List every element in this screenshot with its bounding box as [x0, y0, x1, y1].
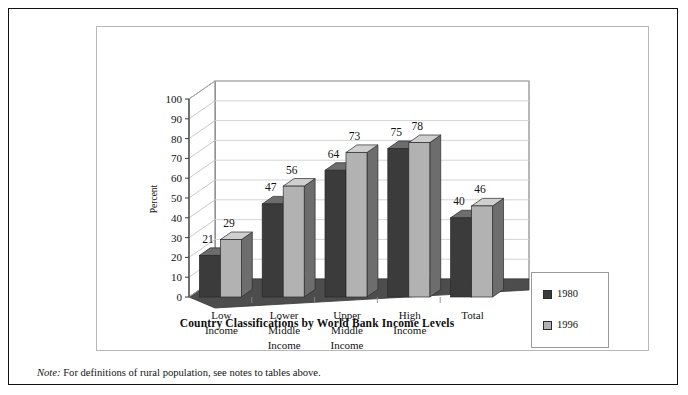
bar-value-label: 78: [412, 120, 424, 132]
x-axis-title: Country Classifications by World Bank In…: [97, 317, 537, 329]
y-axis-title: Percent: [149, 184, 159, 213]
y-tick-label: 90: [171, 113, 183, 125]
bar-1996-high-income: [409, 135, 441, 297]
y-tick-label: 60: [171, 172, 183, 184]
note-text: For definitions of rural population, see…: [61, 367, 321, 378]
bar-value-label: 64: [328, 148, 340, 160]
bar-1996-upper-middle-income: [346, 145, 378, 297]
x-category-label: Income: [268, 339, 301, 350]
y-tick-label: 50: [171, 192, 183, 204]
bar-value-label: 56: [286, 164, 298, 176]
x-category-label: Income: [331, 339, 364, 350]
bar-value-label: 46: [474, 183, 486, 195]
y-tick-label: 30: [171, 232, 183, 244]
y-tick-label: 70: [171, 152, 183, 164]
figure-note: Note: For definitions of rural populatio…: [37, 367, 321, 378]
y-tick-label: 0: [177, 291, 183, 303]
bar-value-label: 73: [349, 130, 361, 142]
note-label: Note:: [37, 367, 61, 378]
bar-value-label: 21: [202, 233, 214, 245]
legend-label-1996: 1996: [557, 320, 578, 331]
bar-value-label: 47: [265, 181, 277, 193]
legend-swatch-1980: [543, 290, 552, 299]
bar-value-label: 40: [453, 195, 465, 207]
chart-panel: 0102030405060708090100 21294756647375784…: [96, 26, 649, 351]
y-tick-label: 40: [171, 212, 183, 224]
legend-label-1980: 1980: [557, 289, 578, 300]
chart-legend: 1980 1996: [531, 272, 609, 348]
legend-entry-1980: 1980: [543, 289, 578, 300]
y-tick-label: 100: [166, 93, 183, 105]
y-tick-label: 80: [171, 133, 183, 145]
bar-value-label: 29: [223, 217, 235, 229]
bar-1996-low-income: [220, 232, 252, 297]
y-tick-label: 20: [171, 251, 183, 263]
bar-1996-total: [472, 198, 504, 297]
figure-outer-frame: 0102030405060708090100 21294756647375784…: [8, 8, 678, 385]
bar-value-label: 75: [391, 126, 403, 138]
legend-entry-1996: 1996: [543, 320, 578, 331]
bar-1996-lower-middle-income: [283, 179, 315, 297]
y-tick-label: 10: [171, 271, 183, 283]
y-axis-ticks: 0102030405060708090100: [166, 93, 183, 303]
category-labels: LowIncomeLowerMiddleIncomeUpperMiddleInc…: [205, 309, 484, 350]
legend-swatch-1996: [543, 321, 552, 330]
